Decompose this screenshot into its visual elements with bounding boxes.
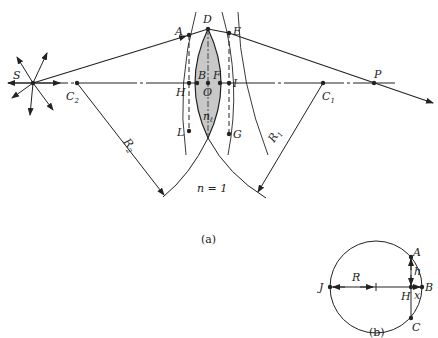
label-x: x xyxy=(414,289,421,302)
lens-diagram: S C2 A D E B F O H I L G C1 P nℓ R2 R1 n… xyxy=(0,0,438,338)
label-G: G xyxy=(233,128,242,141)
point-C2 xyxy=(75,81,79,85)
point-H-b xyxy=(409,285,413,289)
label-A: A xyxy=(174,25,183,38)
label-R2: R2 xyxy=(118,135,139,156)
point-I xyxy=(227,81,231,85)
point-S xyxy=(31,81,35,85)
label-B: B xyxy=(197,69,206,82)
caption-a: (a) xyxy=(201,233,216,246)
label-C1: C1 xyxy=(322,90,335,105)
point-A xyxy=(187,33,191,37)
label-R: R xyxy=(351,271,360,284)
label-H-b: H xyxy=(400,290,411,303)
label-J: J xyxy=(317,281,324,294)
figure-a: S C2 A D E B F O H I L G C1 P nℓ R2 R1 n… xyxy=(8,12,433,246)
label-H: H xyxy=(175,86,186,99)
label-C2: C2 xyxy=(66,90,79,105)
point-C-b xyxy=(409,316,413,320)
point-C1 xyxy=(321,81,325,85)
label-R1: R1 xyxy=(265,127,285,147)
point-G xyxy=(227,132,231,136)
label-P: P xyxy=(373,68,382,81)
label-D: D xyxy=(202,13,212,26)
label-L: L xyxy=(176,126,184,139)
radius-R2 xyxy=(77,83,164,195)
label-F: F xyxy=(212,69,221,82)
label-C-b: C xyxy=(412,321,421,334)
point-D xyxy=(206,27,210,31)
label-S: S xyxy=(13,69,21,82)
label-medium-index: n = 1 xyxy=(197,182,227,195)
label-B-b: B xyxy=(424,281,433,294)
point-B-b xyxy=(420,285,424,289)
label-A-b: A xyxy=(412,246,421,259)
point-O xyxy=(206,81,210,85)
point-P xyxy=(372,81,376,85)
emergent-ray xyxy=(229,33,433,103)
label-O: O xyxy=(203,86,212,99)
label-I: I xyxy=(232,77,238,90)
incident-ray xyxy=(33,36,186,83)
label-E: E xyxy=(232,25,241,38)
figure-b: J A B H C R h x (b) xyxy=(317,241,433,338)
point-L xyxy=(187,129,191,133)
point-J xyxy=(328,285,332,289)
point-E xyxy=(227,31,231,35)
point-H xyxy=(187,81,191,85)
label-h: h xyxy=(414,265,421,278)
caption-b: (b) xyxy=(369,326,385,338)
